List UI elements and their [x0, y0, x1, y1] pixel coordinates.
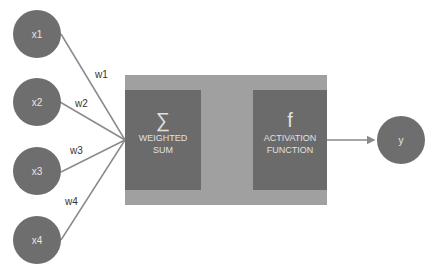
input-label: x2: [32, 97, 43, 108]
activation-line1: ACTIVATION: [253, 132, 327, 144]
weighted-sum-box: ∑ WEIGHTED SUM: [125, 90, 201, 190]
output-node-y: y: [377, 116, 425, 164]
weight-label-w4: w4: [65, 196, 78, 207]
function-f-icon: f: [253, 108, 327, 132]
sigma-icon: ∑: [125, 108, 201, 132]
input-label: x3: [32, 166, 43, 177]
output-label: y: [399, 135, 404, 146]
input-node-x4: x4: [13, 216, 61, 264]
input-node-x1: x1: [13, 10, 61, 58]
input-node-x2: x2: [13, 78, 61, 126]
activation-function-box: f ACTIVATION FUNCTION: [253, 90, 327, 190]
weight-label-w1: w1: [95, 69, 108, 80]
weighted-sum-line1: WEIGHTED: [125, 132, 201, 144]
input-node-x3: x3: [13, 147, 61, 195]
weighted-sum-line2: SUM: [125, 144, 201, 156]
input-label: x1: [32, 29, 43, 40]
activation-line2: FUNCTION: [253, 144, 327, 156]
weight-label-w2: w2: [75, 98, 88, 109]
input-label: x4: [32, 235, 43, 246]
weight-label-w3: w3: [70, 145, 83, 156]
